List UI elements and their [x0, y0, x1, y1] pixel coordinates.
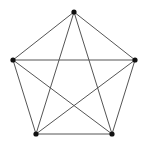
- edge-layer: [13, 12, 135, 134]
- edge-top-bottom-right: [74, 12, 112, 134]
- node-right: [132, 57, 137, 62]
- edge-right-bottom-right: [112, 60, 135, 134]
- edge-top-bottom-left: [36, 12, 74, 134]
- edge-right-bottom-left: [36, 60, 135, 134]
- node-bottom-right: [109, 131, 114, 136]
- node-top: [71, 9, 76, 14]
- edge-top-right: [74, 12, 135, 60]
- node-layer: [10, 9, 137, 136]
- node-bottom-left: [33, 131, 38, 136]
- graph-canvas: [0, 0, 145, 147]
- edge-bottom-left-left: [13, 60, 36, 134]
- node-left: [10, 57, 15, 62]
- graph-diagram: [0, 0, 145, 147]
- edge-bottom-right-left: [13, 60, 112, 134]
- edge-left-top: [13, 12, 74, 60]
